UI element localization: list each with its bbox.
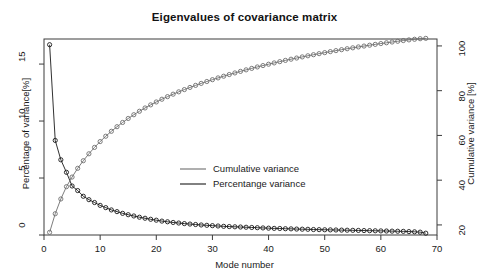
x-tick-label: 40 — [254, 243, 284, 254]
y-tick-label-left: 5 — [16, 166, 27, 188]
y-tick-label-right: 60 — [456, 122, 467, 146]
y-tick-label-right: 80 — [456, 77, 467, 101]
legend-item-label: Cumulative variance — [213, 163, 299, 174]
y-tick-label-left: 15 — [16, 52, 27, 74]
y-tick-label-left: 0 — [16, 223, 27, 245]
data-series-group — [48, 36, 428, 235]
x-tick-label: 60 — [366, 243, 396, 254]
series-line-1 — [50, 38, 426, 232]
y-tick-label-left: 10 — [16, 109, 27, 131]
x-tick-label: 0 — [29, 243, 59, 254]
legend-lines-group — [180, 169, 206, 184]
x-axis-label: Mode number — [0, 259, 489, 270]
plot-canvas — [0, 0, 489, 278]
y-tick-label-right: 100 — [456, 32, 467, 56]
plot-box — [44, 39, 437, 235]
chart-figure: Eigenvalues of covariance matrix Mode nu… — [0, 0, 489, 278]
x-tick-label: 20 — [141, 243, 171, 254]
series-line-0 — [50, 45, 426, 233]
x-tick-label: 50 — [310, 243, 340, 254]
x-tick-label: 10 — [85, 243, 115, 254]
x-tick-label: 70 — [422, 243, 452, 254]
y-axis-label-left: Percentage of variance[%] — [20, 54, 31, 214]
legend-item-label: Percentange variance — [213, 178, 305, 189]
y-tick-label-right: 20 — [456, 211, 467, 235]
y-tick-label-right: 40 — [456, 167, 467, 191]
x-tick-label: 30 — [197, 243, 227, 254]
